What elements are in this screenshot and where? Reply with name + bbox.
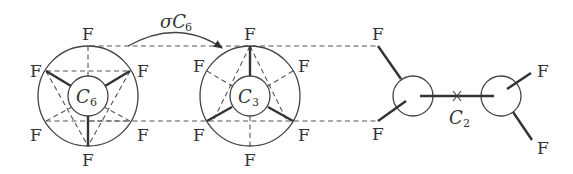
atom-f-upper-right: F <box>537 61 549 81</box>
c3-axis-label: C <box>238 86 252 107</box>
atom-f-upper-right: F <box>298 56 310 76</box>
sigma-c6-arrow: σC 6 <box>128 11 222 48</box>
atom-f-lower-left: F <box>372 124 384 144</box>
atom-f-lower-left: F <box>193 125 205 145</box>
atom-f-lower-right: F <box>137 125 149 145</box>
c2-axis-label: C <box>449 107 463 128</box>
c2-axis-subscript: 2 <box>463 117 470 130</box>
sigma-c6-subscript: 6 <box>185 21 192 34</box>
atom-f-lower-right: F <box>298 125 310 145</box>
symmetry-diagram: σC 6 C 6 F F F F F F <box>0 0 573 174</box>
c6-axis-subscript: 6 <box>90 96 97 109</box>
atom-f-upper-right: F <box>137 61 149 81</box>
side-projection: C 2 F F F F <box>372 24 549 158</box>
sigma-c6-label: σC <box>160 11 186 32</box>
atom-f-bottom: F <box>82 150 94 170</box>
c6-axis-label: C <box>76 86 90 107</box>
atom-f-bottom: F <box>244 150 256 170</box>
staggered-projection: C 6 F F F F F F <box>30 24 149 170</box>
atom-f-upper-left: F <box>372 24 384 44</box>
atom-f-top: F <box>244 24 256 44</box>
atom-f-upper-left: F <box>193 56 205 76</box>
atom-f-top: F <box>82 24 94 44</box>
c3-axis-subscript: 3 <box>252 96 259 109</box>
atom-f-lower-left: F <box>30 125 42 145</box>
atom-f-upper-left: F <box>30 61 42 81</box>
atom-f-lower-right: F <box>537 138 549 158</box>
